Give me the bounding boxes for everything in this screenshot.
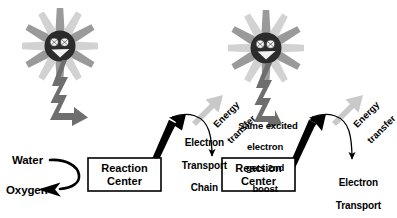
note-line4: boost xyxy=(252,183,277,194)
oxygen-label: Oxygen xyxy=(6,184,48,197)
reaction-center-1-line2: Center xyxy=(107,175,142,187)
note-line3: gets 2nd xyxy=(246,162,284,173)
sun-right-eye-right xyxy=(267,40,275,48)
water-label: Water xyxy=(12,154,43,167)
sun-right-eye-left xyxy=(256,40,264,48)
etc-right-line2: Transport xyxy=(336,200,381,211)
light-bolt-left-icon xyxy=(50,60,88,126)
reaction-center-1-label: Reaction Center xyxy=(88,158,161,191)
etc-right-line1: Electron xyxy=(339,177,378,188)
etc-middle-line3: Chain xyxy=(191,182,218,193)
sun-left-eye-right xyxy=(61,38,69,46)
sun-left-eye-left xyxy=(50,38,58,46)
reaction-center-1-line1: Reaction xyxy=(101,162,147,174)
diagram-canvas: Reaction Center Reaction Center Water Ox… xyxy=(0,0,397,218)
etc-middle-line2: Transport xyxy=(182,160,227,171)
note-line2: electron xyxy=(247,141,283,152)
electron-transport-chain-right-label: Electron Transport Chain xyxy=(322,166,384,218)
